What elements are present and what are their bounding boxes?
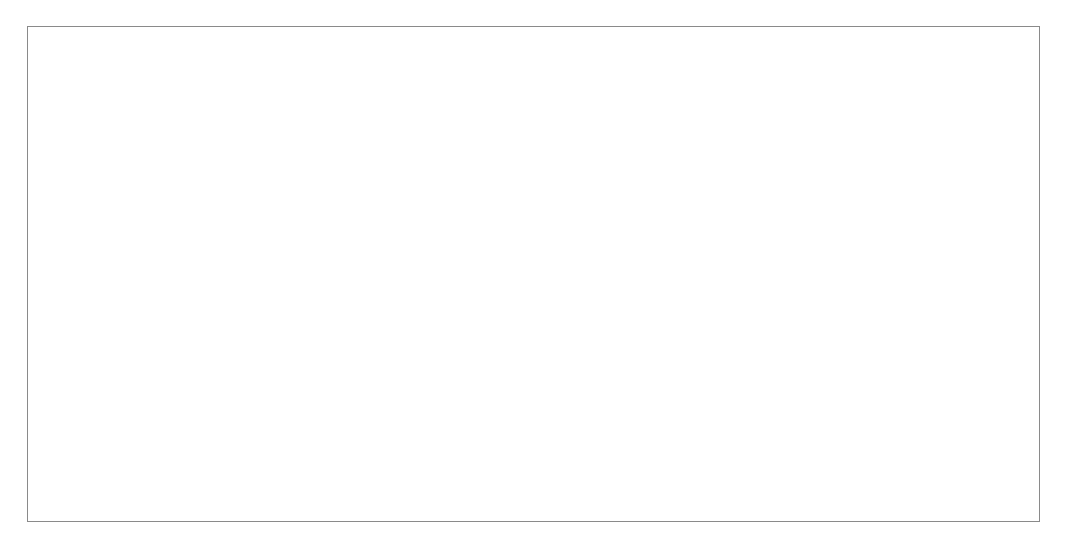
figure-root — [0, 0, 1068, 549]
plot-frame-border — [27, 26, 1040, 522]
